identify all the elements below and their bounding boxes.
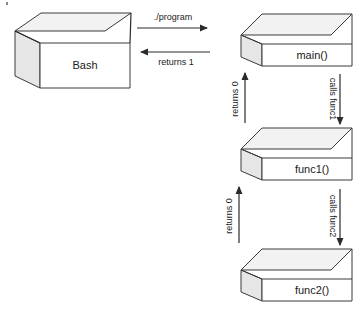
box-bash-top-right-edge bbox=[130, 13, 131, 43]
call-flow-diagram: Bash main() func1() func2() bbox=[0, 0, 362, 314]
arrow-return-func2-label: returns 0 bbox=[224, 198, 234, 234]
box-bash-top-face bbox=[15, 13, 131, 31]
arrow-return-func2: returns 0 bbox=[224, 187, 239, 243]
diagram-canvas: Bash main() func1() func2() bbox=[0, 0, 362, 314]
box-func1: func1() bbox=[241, 128, 352, 180]
box-func2: func2() bbox=[241, 249, 352, 301]
arrow-call-func1-label: calls func1 bbox=[328, 78, 338, 121]
box-main-label: main() bbox=[296, 49, 327, 61]
box-func2-top-face bbox=[241, 249, 352, 270]
box-bash: Bash bbox=[15, 13, 131, 88]
arrow-call-func2-label: calls func2 bbox=[328, 195, 338, 238]
arrow-return-func1-label: returns 0 bbox=[230, 81, 240, 117]
box-bash-side-face bbox=[15, 31, 40, 88]
arrow-return-to-bash: returns 1 bbox=[141, 52, 210, 67]
box-func1-top-face bbox=[241, 128, 352, 149]
arrow-call-func1: calls func1 bbox=[328, 74, 340, 124]
box-func2-label: func2() bbox=[295, 284, 329, 296]
arrow-return-func1: returns 0 bbox=[230, 73, 245, 123]
arrow-invoke-program-label: ./program bbox=[154, 12, 193, 22]
box-main: main() bbox=[241, 14, 352, 66]
box-func1-label: func1() bbox=[295, 163, 329, 175]
scan-artifact-speck bbox=[6, 2, 8, 5]
arrow-return-to-bash-label: returns 1 bbox=[158, 57, 194, 67]
arrow-call-func2: calls func2 bbox=[328, 189, 340, 245]
arrow-invoke-program: ./program bbox=[137, 12, 207, 28]
box-bash-label: Bash bbox=[72, 59, 97, 71]
box-main-top-face bbox=[241, 14, 352, 35]
